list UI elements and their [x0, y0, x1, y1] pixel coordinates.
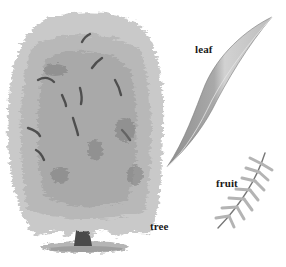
label-tree: tree	[150, 221, 169, 232]
label-fruit: fruit	[216, 178, 238, 189]
fruit-drawing	[216, 153, 272, 228]
leaf-blade	[167, 17, 272, 167]
leaf-drawing	[167, 17, 272, 167]
label-leaf: leaf	[195, 44, 213, 55]
willow-illustration: leaf fruit tree	[0, 0, 286, 267]
tree-drawing	[8, 12, 164, 253]
